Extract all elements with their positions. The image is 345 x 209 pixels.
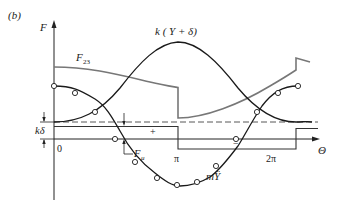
marker-circle-icon	[51, 83, 56, 88]
f23-curve	[54, 58, 310, 118]
marker-circle-icon	[254, 109, 259, 114]
tick-zero: 0	[57, 143, 62, 154]
plus-sign: +	[150, 126, 156, 137]
marker-circle-icon	[112, 136, 117, 141]
marker-circle-icon	[275, 90, 280, 95]
f23-label-sub: 23	[83, 58, 91, 66]
f23-label: F	[75, 51, 83, 63]
marker-circle-icon	[233, 136, 238, 141]
f-axis-arrow-icon	[52, 20, 57, 28]
inertia-force-label: mŸ	[206, 170, 222, 182]
cam-force-diagram: (b) F Θ 0 π 2π kδ F μ + − F 23 k ( Y + δ…	[0, 0, 345, 209]
marker-circle-icon	[132, 159, 137, 164]
k-delta-label: kδ	[35, 125, 46, 136]
marker-circle-icon	[194, 179, 199, 184]
spring-force-label: k ( Y + δ)	[155, 25, 197, 38]
tick-two-pi: 2π	[266, 153, 276, 164]
marker-circle-icon	[154, 175, 159, 180]
f-axis-label: F	[39, 21, 47, 33]
inertia-curve-markers	[51, 83, 300, 187]
marker-circle-icon	[72, 90, 77, 95]
panel-label: (b)	[8, 9, 21, 22]
friction-force-step	[54, 127, 318, 150]
arrow-up-icon	[42, 139, 45, 144]
theta-axis-label: Θ	[318, 144, 326, 156]
marker-circle-icon	[92, 109, 97, 114]
arrow-down-icon	[42, 117, 45, 122]
marker-circle-icon	[295, 83, 300, 88]
marker-circle-icon	[213, 163, 218, 168]
marker-circle-icon	[174, 182, 179, 187]
inertia-force-curve	[54, 86, 298, 186]
fmu-leader-line	[124, 141, 133, 154]
arrow-down-icon	[122, 121, 125, 126]
tick-pi: π	[174, 153, 179, 164]
theta-axis-arrow-icon	[312, 137, 320, 142]
